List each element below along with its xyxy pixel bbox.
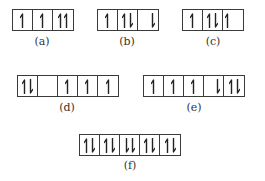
orbital-cell bbox=[223, 10, 243, 30]
orbital-cell bbox=[53, 10, 73, 30]
electron-spins bbox=[151, 79, 156, 94]
orbital-cell bbox=[38, 76, 58, 96]
orbital-cell bbox=[204, 76, 224, 96]
electron-spins bbox=[171, 79, 176, 94]
spin-down-arrow-icon bbox=[128, 13, 133, 28]
orbital-box-a bbox=[12, 9, 74, 31]
spin-up-arrow-icon bbox=[85, 79, 90, 94]
orbital-cell bbox=[118, 10, 138, 30]
orbital-cell bbox=[78, 76, 98, 96]
orbital-box-d bbox=[17, 75, 119, 97]
orbital-cell bbox=[138, 10, 158, 30]
electron-spins bbox=[85, 79, 90, 94]
spin-up-arrow-icon bbox=[165, 138, 170, 153]
orbital-cell bbox=[58, 76, 78, 96]
spin-up-arrow-icon bbox=[122, 13, 127, 28]
orbital-cell bbox=[183, 10, 203, 30]
spin-up-arrow-icon bbox=[190, 13, 195, 28]
orbital-cell bbox=[98, 76, 118, 96]
spin-up-arrow-icon bbox=[65, 79, 70, 94]
electron-spins bbox=[22, 79, 33, 94]
orbital-box-f bbox=[79, 134, 181, 156]
config-label-b: (b) bbox=[119, 35, 135, 48]
spin-up-arrow-icon bbox=[84, 138, 89, 153]
electron-spins bbox=[190, 13, 195, 28]
spin-up-arrow-icon bbox=[207, 13, 212, 28]
electron-spins bbox=[144, 138, 155, 153]
spin-up-arrow-icon bbox=[58, 13, 63, 28]
orbital-box-c bbox=[182, 9, 244, 31]
electron-spins bbox=[40, 13, 45, 28]
electron-spins bbox=[65, 79, 70, 94]
spin-up-arrow-icon bbox=[191, 79, 196, 94]
spin-up-arrow-icon bbox=[225, 13, 230, 28]
spin-up-arrow-icon bbox=[106, 79, 111, 94]
orbital-box-b bbox=[97, 9, 159, 31]
config-label-e: (e) bbox=[186, 101, 201, 114]
electron-spins bbox=[229, 79, 240, 94]
electron-spins bbox=[124, 138, 135, 153]
spin-up-arrow-icon bbox=[105, 13, 110, 28]
spin-down-arrow-icon bbox=[28, 79, 33, 94]
electron-spins bbox=[225, 13, 230, 28]
spin-up-arrow-icon bbox=[20, 13, 25, 28]
electron-spins bbox=[104, 138, 115, 153]
orbital-cell bbox=[140, 135, 160, 155]
spin-up-arrow-icon bbox=[229, 79, 234, 94]
spin-up-arrow-icon bbox=[171, 79, 176, 94]
electron-spins bbox=[106, 79, 111, 94]
orbital-box-e bbox=[143, 75, 245, 97]
spin-down-arrow-icon bbox=[215, 79, 220, 94]
spin-down-arrow-icon bbox=[130, 138, 135, 153]
electron-spins bbox=[84, 138, 95, 153]
config-label-c: (c) bbox=[206, 35, 221, 48]
electron-spins bbox=[20, 13, 25, 28]
config-label-f: (f) bbox=[124, 159, 137, 172]
spin-down-arrow-icon bbox=[150, 138, 155, 153]
electron-spins bbox=[215, 79, 220, 94]
spin-up-arrow-icon bbox=[64, 13, 69, 28]
orbital-cell bbox=[13, 10, 33, 30]
electron-spins bbox=[191, 79, 196, 94]
spin-up-arrow-icon bbox=[144, 138, 149, 153]
orbital-cell bbox=[160, 135, 180, 155]
orbital-cell bbox=[33, 10, 53, 30]
orbital-cell bbox=[98, 10, 118, 30]
spin-up-arrow-icon bbox=[22, 79, 27, 94]
orbital-cell bbox=[120, 135, 140, 155]
electron-spins bbox=[150, 13, 155, 28]
electron-spins bbox=[105, 13, 110, 28]
spin-down-arrow-icon bbox=[213, 13, 218, 28]
spin-down-arrow-icon bbox=[90, 138, 95, 153]
config-label-d: (d) bbox=[59, 101, 75, 114]
orbital-cell bbox=[164, 76, 184, 96]
spin-down-arrow-icon bbox=[110, 138, 115, 153]
electron-spins bbox=[58, 13, 69, 28]
electron-spins bbox=[207, 13, 218, 28]
spin-down-arrow-icon bbox=[150, 13, 155, 28]
orbital-cell bbox=[100, 135, 120, 155]
spin-down-arrow-icon bbox=[171, 138, 176, 153]
electron-spins bbox=[122, 13, 133, 28]
spin-up-arrow-icon bbox=[40, 13, 45, 28]
config-label-a: (a) bbox=[34, 35, 49, 48]
spin-down-arrow-icon bbox=[124, 138, 129, 153]
orbital-cell bbox=[224, 76, 244, 96]
orbital-cell bbox=[80, 135, 100, 155]
spin-down-arrow-icon bbox=[235, 79, 240, 94]
orbital-cell bbox=[203, 10, 223, 30]
orbital-cell bbox=[18, 76, 38, 96]
spin-up-arrow-icon bbox=[151, 79, 156, 94]
electron-spins bbox=[165, 138, 176, 153]
orbital-cell bbox=[184, 76, 204, 96]
spin-up-arrow-icon bbox=[104, 138, 109, 153]
orbital-cell bbox=[144, 76, 164, 96]
